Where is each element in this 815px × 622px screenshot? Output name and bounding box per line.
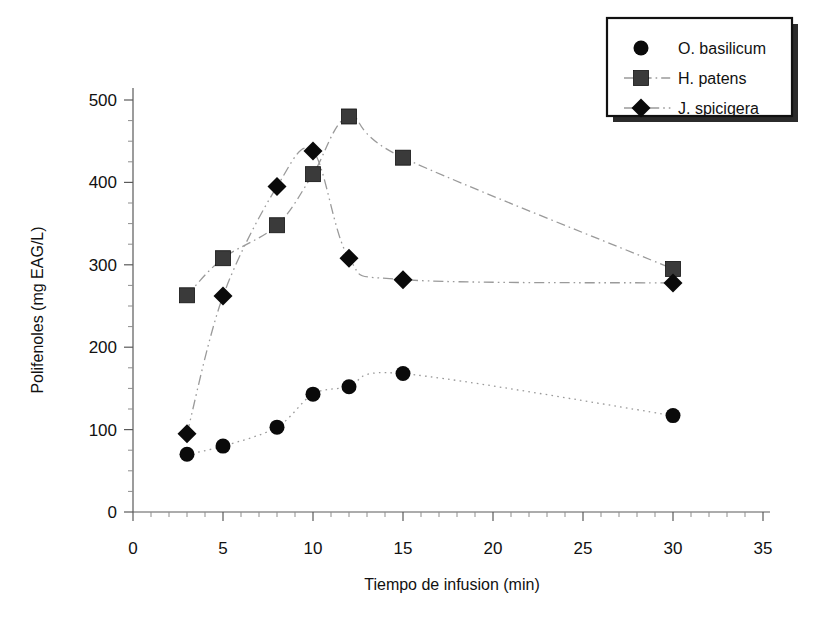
data-point-circle — [342, 379, 357, 394]
x-axis-title: Tiempo de infusion (min) — [364, 576, 539, 593]
data-point-circle — [666, 408, 681, 423]
data-point-square — [180, 288, 195, 303]
y-tick-label: 200 — [89, 338, 117, 357]
legend-marker-circle — [634, 41, 649, 56]
chart-figure: 0100200300400500 05101520253035 Tiempo d… — [0, 0, 815, 622]
x-tick-label: 5 — [218, 539, 227, 558]
legend-item: H. patens — [624, 70, 746, 87]
y-tick-label: 500 — [89, 91, 117, 110]
x-tick-label: 20 — [484, 539, 503, 558]
legend-label: O. basilicum — [678, 40, 766, 57]
y-tick-label: 0 — [108, 503, 117, 522]
legend: O. basilicumH. patensJ. spicigera — [607, 18, 798, 122]
data-point-square — [306, 167, 321, 182]
x-tick-label: 35 — [754, 539, 773, 558]
y-tick-label: 100 — [89, 421, 117, 440]
data-point-circle — [216, 439, 231, 454]
legend-label: H. patens — [678, 70, 746, 87]
x-tick-label: 30 — [664, 539, 683, 558]
x-tick-label: 15 — [394, 539, 413, 558]
x-tick-label: 25 — [574, 539, 593, 558]
data-point-circle — [180, 447, 195, 462]
legend-items: O. basilicumH. patensJ. spicigera — [624, 40, 766, 118]
x-tick-label: 0 — [128, 539, 137, 558]
y-tick-label: 400 — [89, 173, 117, 192]
data-point-circle — [396, 366, 411, 381]
x-tick-label: 10 — [304, 539, 323, 558]
data-point-circle — [306, 387, 321, 402]
legend-marker-square — [634, 71, 649, 86]
y-axis-title: Polifenoles (mg EAG/L) — [29, 226, 46, 393]
data-point-square — [270, 218, 285, 233]
data-point-square — [216, 251, 231, 266]
data-point-circle — [270, 420, 285, 435]
legend-label: J. spicigera — [678, 100, 759, 117]
data-point-square — [396, 150, 411, 165]
data-point-square — [342, 109, 357, 124]
polyphenol-infusion-line-chart: 0100200300400500 05101520253035 Tiempo d… — [0, 0, 815, 622]
y-tick-label: 300 — [89, 256, 117, 275]
